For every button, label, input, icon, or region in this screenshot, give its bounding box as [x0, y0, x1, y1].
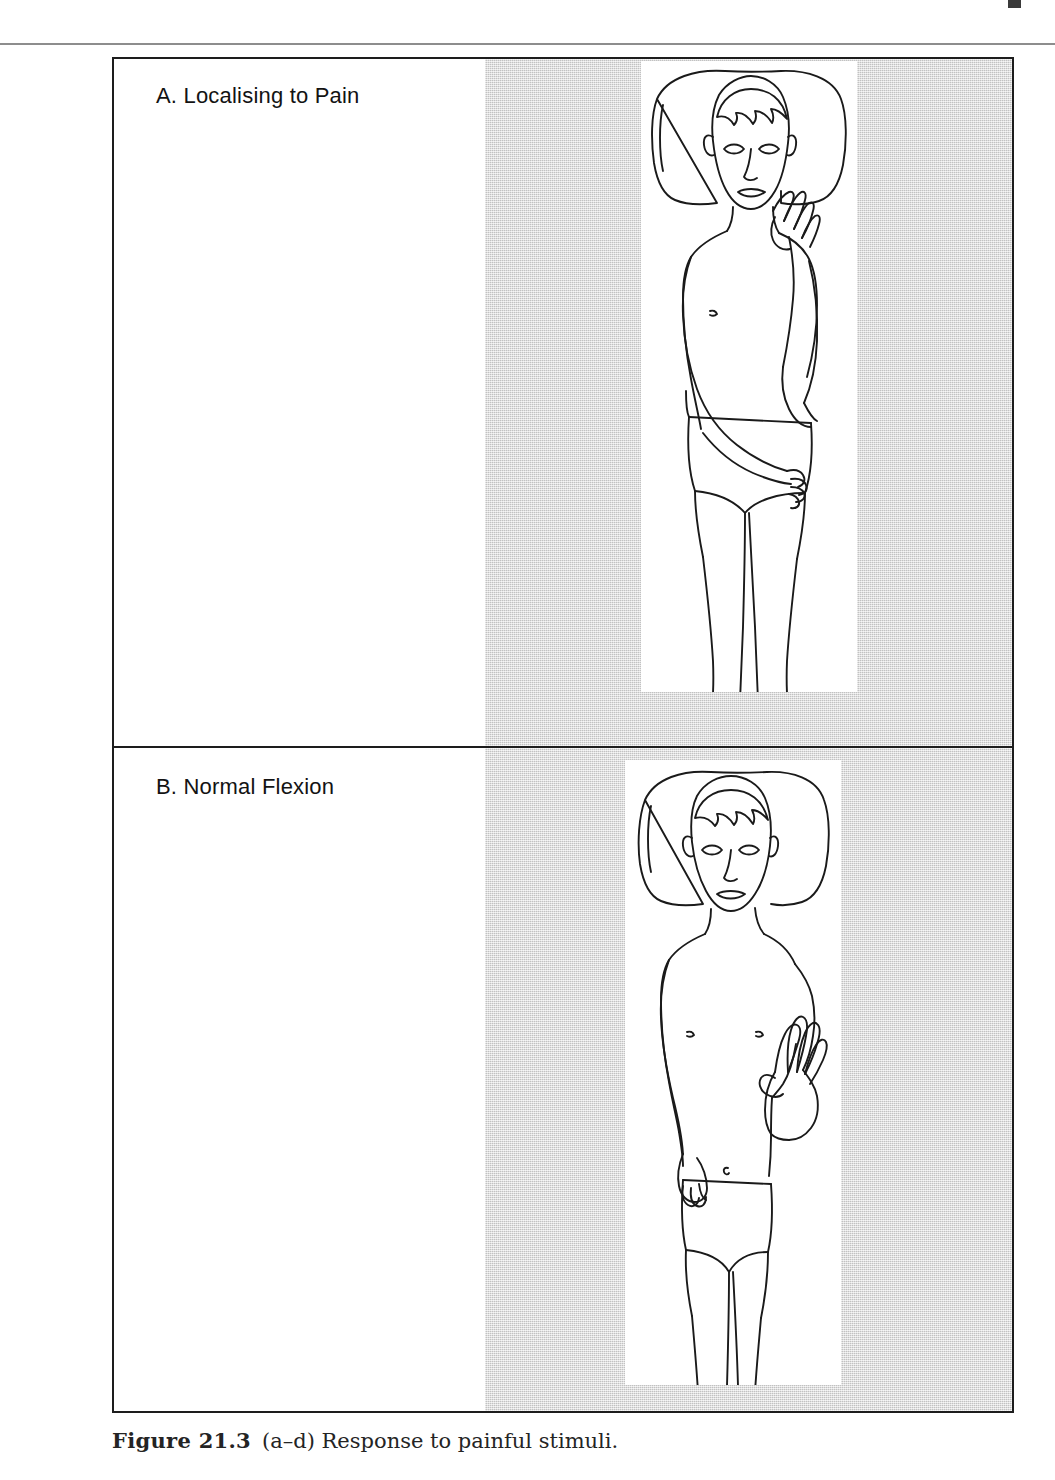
- panel-a-illustration-plate: [641, 61, 857, 692]
- figure-box: A. Localising to Pain: [112, 57, 1014, 1413]
- figure-caption: Figure 21.3(a–d) Response to painful sti…: [112, 1428, 618, 1453]
- page-corner-mark: [1008, 0, 1021, 8]
- figure-caption-text: (a–d) Response to painful stimuli.: [262, 1429, 618, 1453]
- normal-flexion-line-drawing: [625, 760, 841, 1385]
- figure-panel-b: B. Normal Flexion: [114, 746, 1012, 1411]
- panel-b-label: B. Normal Flexion: [156, 774, 334, 800]
- figure-caption-number: Figure 21.3: [112, 1428, 251, 1453]
- figure-panel-a: A. Localising to Pain: [114, 59, 1012, 746]
- panel-b-illustration-plate: [625, 760, 841, 1385]
- header-rule: [0, 43, 1055, 45]
- localising-to-pain-line-drawing: [641, 61, 857, 692]
- panel-a-label: A. Localising to Pain: [156, 83, 360, 109]
